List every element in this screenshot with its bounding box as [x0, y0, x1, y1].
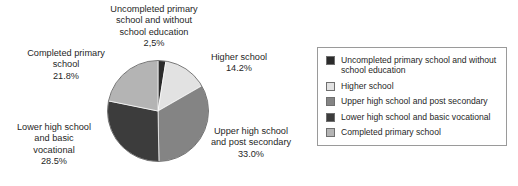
legend-item-label: Higher school — [341, 81, 394, 91]
slice-label-lower-high-school-line3: vocational — [33, 145, 74, 155]
slice-value-higher-school: 14.2% — [188, 63, 290, 74]
slice-label-higher-school-line1: Higher school — [211, 52, 267, 62]
slice-label-completed-primary-line1: Completed primary — [27, 48, 105, 58]
legend-item-label: Uncompleted primary school and without s… — [341, 55, 500, 76]
legend-item[interactable]: Upper high school and post secondary — [326, 96, 500, 106]
legend-item-label: Completed primary school — [341, 127, 441, 137]
slice-value-completed-primary: 21.8% — [14, 71, 118, 82]
slice-label-lower-high-school-line1: Lower high school — [17, 122, 91, 132]
slice-label-completed-primary: Completed primary school 21.8% — [14, 48, 118, 82]
slice-label-uncompleted-line1: Uncompleted primary — [110, 4, 197, 14]
legend-swatch-icon — [326, 128, 335, 137]
slice-label-upper-high-school-line2: and post secondary — [211, 137, 291, 147]
legend-item[interactable]: Completed primary school — [326, 127, 500, 137]
legend-item[interactable]: Higher school — [326, 81, 500, 91]
legend-item[interactable]: Lower high school and basic vocational — [326, 112, 500, 122]
slice-label-completed-primary-line2: school — [53, 59, 80, 69]
chart-legend: Uncompleted primary school and without s… — [317, 47, 507, 146]
legend-item-list: Uncompleted primary school and without s… — [326, 55, 500, 137]
slice-label-uncompleted-line2: school and without — [116, 15, 192, 25]
slice-label-uncompleted: Uncompleted primary school and without s… — [88, 4, 220, 50]
pie-slice[interactable] — [107, 101, 158, 162]
legend-swatch-icon — [326, 56, 335, 65]
legend-swatch-icon — [326, 82, 335, 91]
legend-item[interactable]: Uncompleted primary school and without s… — [326, 55, 500, 76]
legend-item-label: Lower high school and basic vocational — [341, 112, 491, 122]
slice-label-upper-high-school: Upper high school and post secondary 33.… — [192, 126, 310, 160]
slice-label-uncompleted-line3: school education — [120, 27, 189, 37]
legend-swatch-icon — [326, 97, 335, 106]
legend-item-label: Upper high school and post secondary — [341, 96, 488, 106]
slice-value-lower-high-school: 28.5% — [2, 156, 106, 167]
slice-label-higher-school: Higher school 14.2% — [188, 52, 290, 75]
slice-label-lower-high-school: Lower high school and basic vocational 2… — [2, 122, 106, 168]
legend-swatch-icon — [326, 113, 335, 122]
slice-label-lower-high-school-line2: and basic — [34, 133, 73, 143]
slice-value-upper-high-school: 33.0% — [192, 149, 310, 160]
pie-chart-figure: Uncompleted primary school and without s… — [0, 0, 518, 186]
slice-label-upper-high-school-line1: Upper high school — [214, 126, 288, 136]
